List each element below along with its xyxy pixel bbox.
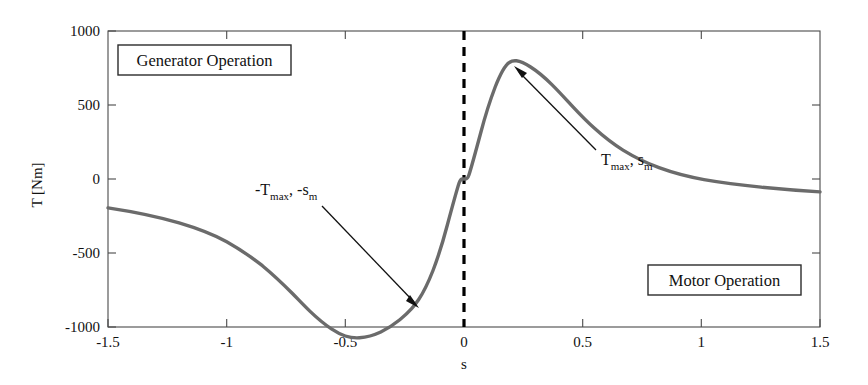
motor-operation-box: Motor Operation bbox=[648, 265, 801, 295]
annot-mot-sep: , s bbox=[630, 151, 644, 168]
y-axis-title: T [Nm] bbox=[29, 162, 45, 207]
annotation-generator-peak: -Tmax, -sm bbox=[255, 181, 419, 308]
y-tick-labels: -1000 -500 0 500 1000 bbox=[65, 23, 100, 335]
annot-mot-sub: max bbox=[611, 160, 630, 172]
x-tick-label: 0.5 bbox=[573, 334, 592, 350]
motor-box-label: Motor Operation bbox=[669, 271, 780, 290]
x-tick-label: 1 bbox=[698, 334, 706, 350]
annotation-motor-arrowhead-icon bbox=[514, 66, 527, 78]
chart-figure: -1.5 -1 -0.5 0 0.5 1 1.5 -1000 -500 0 50… bbox=[0, 0, 868, 385]
y-tick-label: 500 bbox=[78, 97, 101, 113]
annot-mot-sub2: m bbox=[644, 160, 653, 172]
x-tick-label: -1 bbox=[220, 334, 233, 350]
annot-gen-sep: , -s bbox=[289, 181, 309, 198]
y-tick-label: -1000 bbox=[65, 319, 100, 335]
x-axis-title: s bbox=[461, 356, 467, 372]
generator-operation-box: Generator Operation bbox=[118, 45, 291, 75]
annot-gen-sub2: m bbox=[309, 190, 318, 202]
annot-mot-main: T bbox=[601, 151, 611, 168]
y-tick-label: -500 bbox=[73, 245, 101, 261]
x-tick-labels: -1.5 -1 -0.5 0 0.5 1 1.5 bbox=[96, 334, 829, 350]
x-tick-label: 1.5 bbox=[811, 334, 830, 350]
annot-gen-main: -T bbox=[255, 181, 270, 198]
y-tick-label: 1000 bbox=[70, 23, 100, 39]
x-tick-label: -1.5 bbox=[96, 334, 120, 350]
annot-gen-sub: max bbox=[270, 190, 289, 202]
annotation-generator-text: -Tmax, -sm bbox=[255, 181, 318, 202]
x-tick-label: 0 bbox=[460, 334, 468, 350]
generator-box-label: Generator Operation bbox=[136, 51, 272, 70]
y-tick-label: 0 bbox=[93, 171, 101, 187]
